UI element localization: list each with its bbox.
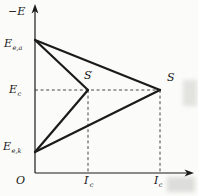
- diagram-canvas: [0, 0, 198, 196]
- y-axis-label: −E: [8, 6, 25, 17]
- anode-potential-label: Ee,a: [4, 38, 22, 52]
- polarization-line: [35, 40, 88, 90]
- polarization-line: [35, 90, 88, 152]
- cathode-potential-label: Ee,k: [3, 141, 21, 155]
- polarization-line: [35, 90, 160, 152]
- point-s-label: S: [167, 72, 175, 83]
- current-i-prime-label: I′c: [84, 175, 93, 189]
- axes: [32, 4, 194, 176]
- origin-label: O: [16, 175, 25, 186]
- polarization-lines: [35, 40, 160, 152]
- evans-polarization-diagram: −EEe,aEcEe,kOS′SI′cIc: [0, 0, 198, 196]
- current-i-label: Ic: [154, 175, 163, 189]
- corrosion-potential-label: Ec: [9, 84, 21, 98]
- point-s-prime-label: S′: [84, 70, 92, 81]
- polarization-line: [35, 40, 160, 90]
